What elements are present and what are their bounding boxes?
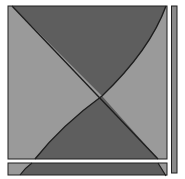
vertical-bar-track[interactable] bbox=[172, 6, 178, 173]
geometric-canvas bbox=[0, 0, 185, 179]
vertical-scrollbar[interactable] bbox=[172, 6, 178, 173]
horizontal-scrollbar[interactable] bbox=[8, 163, 167, 176]
horizontal-bar-dark-region bbox=[20, 163, 166, 175]
main-panel bbox=[8, 6, 167, 159]
